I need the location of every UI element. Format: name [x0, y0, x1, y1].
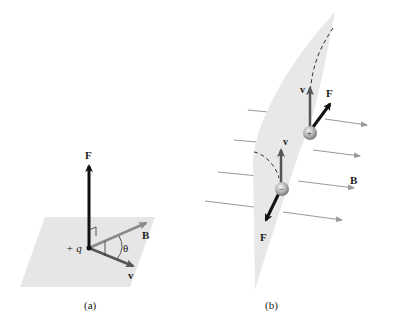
caption-a: (a) — [84, 299, 97, 312]
panel-b: B v F + v F − (b) — [205, 12, 367, 312]
panel-a: F B v θ + q (a) — [20, 149, 155, 312]
positive-sign: + — [307, 129, 312, 138]
velocity-label-negative: v — [283, 136, 288, 147]
field-label-b: B — [350, 174, 358, 186]
force-label-negative: F — [260, 231, 267, 243]
force-label-a: F — [85, 149, 92, 161]
velocity-label-positive: v — [300, 84, 305, 95]
charge-point — [87, 246, 92, 251]
velocity-label-a: v — [128, 269, 134, 281]
magnetic-force-diagram: F B v θ + q (a) B — [0, 0, 399, 322]
field-line — [283, 212, 342, 220]
field-label-a: B — [142, 229, 150, 241]
field-line — [218, 172, 258, 176]
field-line — [313, 150, 360, 156]
field-line — [205, 201, 254, 207]
field-line — [325, 119, 367, 125]
force-arrow-positive — [313, 104, 330, 127]
field-line — [298, 181, 354, 188]
charge-label: + q — [66, 242, 82, 254]
caption-b: (b) — [265, 299, 278, 312]
negative-sign: − — [279, 185, 284, 194]
force-label-positive: F — [326, 87, 333, 99]
angle-label: θ — [123, 242, 128, 254]
